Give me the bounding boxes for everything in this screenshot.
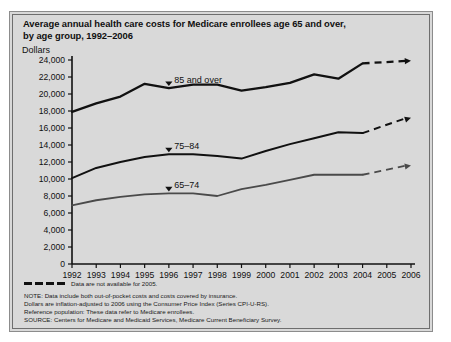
x-axis-tick-label: 1995 (135, 270, 154, 280)
x-axis-tick-label: 2005 (377, 270, 396, 280)
chart-screenshot: Average annual health care costs for Med… (0, 0, 451, 342)
series-label: 65–74 (174, 180, 199, 190)
x-axis-tick-label: 2001 (280, 270, 299, 280)
series-endpoint-marker (404, 164, 411, 170)
figure-panel: Average annual health care costs for Med… (9, 11, 433, 332)
legend-dash-icon (35, 282, 43, 285)
x-axis-tick-label: 2004 (353, 270, 372, 280)
y-axis-tick-label: 14,000 (39, 140, 66, 150)
series-line-solid (72, 63, 363, 111)
y-axis-tick-label: 12,000 (39, 157, 66, 167)
note-line: SOURCE: Centers for Medicare and Medicai… (24, 316, 416, 324)
y-axis-tick-label: 8,000 (43, 191, 65, 201)
y-axis-tick-label: 22,000 (39, 72, 66, 82)
y-axis-tick-label: 18,000 (39, 106, 66, 116)
note-line: Reference population: These data refer t… (24, 308, 416, 316)
series-label: 75–84 (174, 141, 199, 151)
series-line-dashed (363, 165, 407, 174)
x-axis-tick-label: 1997 (184, 270, 203, 280)
x-axis-tick-label: 1993 (87, 270, 106, 280)
series-line-solid (72, 175, 363, 206)
series-label-pointer-icon (165, 187, 172, 192)
x-axis-tick-label: 1992 (62, 270, 81, 280)
series-line-dashed (363, 118, 407, 133)
note-line: Dollars are inflation-adjusted to 2006 u… (24, 300, 416, 308)
x-axis-tick-label: 2006 (401, 270, 420, 280)
legend-missing-note: Data are not available for 2005. (71, 280, 157, 287)
y-axis-tick-label: 2,000 (43, 242, 65, 252)
x-axis-tick-label: 1994 (111, 270, 130, 280)
series-label-pointer-icon (165, 81, 172, 86)
y-axis-tick-label: 4,000 (43, 225, 65, 235)
y-axis-tick-label: 0 (60, 259, 65, 269)
legend-dash-icon (57, 282, 65, 285)
chart-notes: NOTE: Data include both out-of-pocket co… (24, 292, 416, 324)
y-axis-tick-label: 24,000 (39, 55, 66, 65)
y-axis-tick-label: 10,000 (39, 174, 66, 184)
y-axis-tick-label: 6,000 (43, 208, 65, 218)
missing-data-legend: Data are not available for 2005. (24, 280, 157, 287)
x-axis-tick-label: 2002 (305, 270, 324, 280)
series-endpoint-marker (404, 117, 411, 123)
series-label: 85 and over (174, 75, 222, 85)
legend-dash-icon (24, 282, 32, 285)
series-endpoint-marker (405, 58, 411, 64)
series-label-pointer-icon (165, 148, 172, 153)
y-axis-tick-label: 20,000 (39, 89, 66, 99)
series-line-dashed (363, 61, 407, 64)
x-axis-tick-label: 1996 (159, 270, 178, 280)
legend-dash-icon (46, 282, 54, 285)
y-axis-tick-label: 16,000 (39, 123, 66, 133)
x-axis-tick-label: 1998 (208, 270, 227, 280)
x-axis-tick-label: 2000 (256, 270, 275, 280)
note-line: NOTE: Data include both out-of-pocket co… (24, 292, 416, 300)
x-axis-tick-label: 2003 (329, 270, 348, 280)
series-line-solid (72, 132, 363, 178)
x-axis-tick-label: 1999 (232, 270, 251, 280)
